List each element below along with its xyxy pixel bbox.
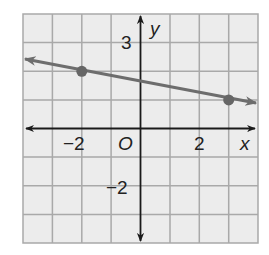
point-neg2-2 bbox=[76, 66, 87, 77]
y-axis-label: y bbox=[148, 18, 161, 39]
x-tick-label-neg2: −2 bbox=[63, 133, 85, 154]
x-axis-label: x bbox=[239, 133, 251, 154]
y-tick-label-neg2: −2 bbox=[106, 177, 128, 198]
y-tick-label-3: 3 bbox=[121, 32, 132, 53]
point-3-1 bbox=[223, 94, 234, 105]
coordinate-plane: 3 y −2 O 2 x −2 bbox=[0, 0, 269, 255]
origin-label: O bbox=[118, 133, 133, 154]
x-tick-label-2: 2 bbox=[194, 133, 205, 154]
